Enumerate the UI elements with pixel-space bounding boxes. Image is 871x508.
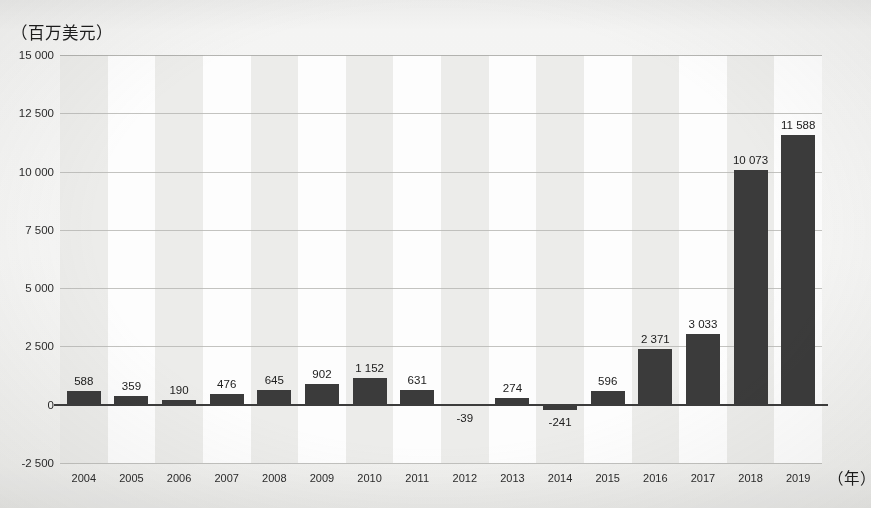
x-axis-tick-label: 2006 [155, 472, 203, 484]
bar-value-label: 3 033 [671, 318, 735, 330]
x-axis-tick-label: 2010 [346, 472, 394, 484]
x-axis-tick-label: 2018 [727, 472, 775, 484]
chart-page: （百万美元） 15 00012 50010 0007 5005 0002 500… [0, 0, 871, 508]
gridline [60, 288, 822, 289]
bar [638, 349, 672, 404]
gridline [60, 230, 822, 231]
bar-value-label: 631 [385, 374, 449, 386]
y-axis-tick-label: 5 000 [25, 282, 54, 294]
gridline [60, 113, 822, 114]
x-axis-tick-label: 2016 [632, 472, 680, 484]
x-axis-tick-label: 2013 [489, 472, 537, 484]
y-axis-tick-label: 15 000 [19, 49, 54, 61]
bar-value-label: 10 073 [719, 154, 783, 166]
x-axis-tick-label: 2005 [108, 472, 156, 484]
bar-value-label: 2 371 [623, 333, 687, 345]
bar [686, 334, 720, 405]
x-axis-title: （年） [828, 466, 871, 488]
y-axis-tick-label: 7 500 [25, 224, 54, 236]
x-axis-tick-label: 2012 [441, 472, 489, 484]
bar [67, 391, 101, 405]
x-axis-tick-label: 2017 [679, 472, 727, 484]
x-axis-tick-label: 2009 [298, 472, 346, 484]
x-axis-tick-label: 2015 [584, 472, 632, 484]
y-axis-tick-label: 12 500 [19, 107, 54, 119]
plot-area [60, 55, 822, 463]
x-axis-tick-label: 2007 [203, 472, 251, 484]
bar [353, 378, 387, 405]
x-axis-tick-label: 2011 [393, 472, 441, 484]
x-axis-tick-label: 2004 [60, 472, 108, 484]
column-band [441, 55, 489, 463]
zero-baseline [54, 404, 828, 406]
bar [734, 170, 768, 405]
bar-value-label: 596 [576, 375, 640, 387]
x-axis-tick-label: 2014 [536, 472, 584, 484]
bar-value-label: -39 [433, 412, 497, 424]
x-axis-tick-label: 2019 [774, 472, 822, 484]
bar [305, 384, 339, 405]
column-band [536, 55, 584, 463]
bar-value-label: 274 [480, 382, 544, 394]
bar-value-label: 1 152 [338, 362, 402, 374]
x-axis-tick-label: 2008 [251, 472, 299, 484]
bar [781, 135, 815, 405]
bar [400, 390, 434, 405]
y-axis-tick-label: 10 000 [19, 166, 54, 178]
y-axis-title: （百万美元） [11, 20, 113, 44]
gridline [60, 172, 822, 173]
y-axis-tick-label: -2 500 [21, 457, 54, 469]
gridline [60, 463, 822, 464]
bar [257, 390, 291, 405]
y-axis-tick-label: 0 [48, 399, 54, 411]
gridline [60, 55, 822, 56]
bar [591, 391, 625, 405]
bar-value-label: -241 [528, 416, 592, 428]
bar-value-label: 11 588 [766, 119, 830, 131]
y-axis-tick-label: 2 500 [25, 340, 54, 352]
